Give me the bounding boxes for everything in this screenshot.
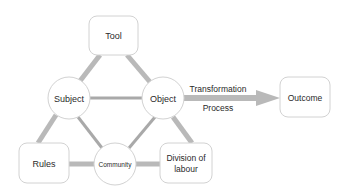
activity-system-diagram: Transformation Process Tool Subject Obje… — [0, 0, 345, 196]
node-outcome: Outcome — [280, 77, 330, 117]
edge-object-division — [173, 117, 192, 143]
division-label-line2: labour — [174, 164, 198, 174]
tool-label: Tool — [105, 31, 122, 41]
arrow-label-bottom: Process — [203, 103, 234, 113]
node-community: Community — [94, 143, 136, 185]
subject-label: Subject — [54, 94, 85, 104]
edge-tool-object — [127, 55, 150, 82]
edge-tool-subject — [80, 55, 100, 81]
node-division-of-labour: Division of labour — [160, 143, 212, 183]
rules-label: Rules — [32, 159, 56, 169]
community-label: Community — [99, 161, 133, 169]
edge-subject-rules — [38, 115, 56, 143]
division-box — [160, 143, 212, 183]
node-rules: Rules — [19, 143, 69, 183]
edge-subject-community — [78, 117, 102, 148]
object-label: Object — [150, 94, 177, 104]
node-object: Object — [142, 77, 184, 119]
transformation-arrow: Transformation Process — [184, 84, 280, 113]
node-tool: Tool — [89, 16, 138, 55]
node-subject: Subject — [48, 77, 90, 119]
arrow-label-top: Transformation — [190, 84, 247, 94]
outcome-label: Outcome — [288, 93, 323, 103]
division-label-line1: Division of — [166, 153, 206, 163]
edge-object-community — [129, 117, 155, 148]
